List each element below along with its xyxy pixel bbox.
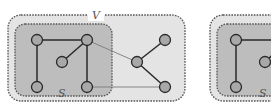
node-b bbox=[82, 35, 93, 46]
node-h bbox=[160, 82, 171, 93]
node-c bbox=[57, 57, 68, 68]
node-e bbox=[82, 82, 93, 93]
figure-right: S bbox=[210, 15, 271, 101]
node-a bbox=[32, 35, 43, 46]
node-d-right bbox=[231, 82, 242, 93]
diagram-canvas: V S S bbox=[0, 0, 271, 110]
set-s-label-right: S bbox=[259, 87, 267, 100]
set-s-label: S bbox=[58, 87, 66, 100]
node-g bbox=[160, 35, 171, 46]
node-f bbox=[132, 57, 143, 68]
set-v-label: V bbox=[92, 9, 101, 22]
node-c-right bbox=[260, 57, 271, 68]
node-d bbox=[32, 82, 43, 93]
figure-left: V S bbox=[8, 9, 185, 101]
node-a-right bbox=[231, 35, 242, 46]
